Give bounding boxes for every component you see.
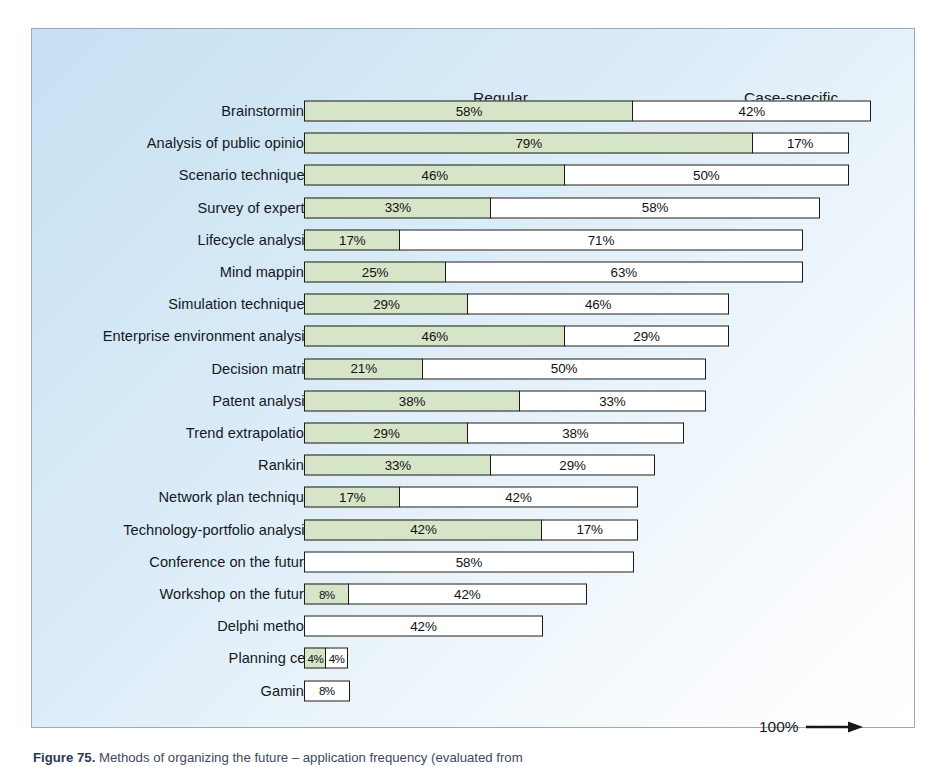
bar-segment-value: 29% [633,330,660,343]
bar-segment-value: 4% [308,653,324,665]
table-row: Scenario techniques46%50% [32,163,916,187]
stacked-bar[interactable]: 29%46% [304,294,729,315]
bar-segment-regular[interactable]: 58% [304,101,634,122]
bar-segment-case-specific[interactable]: 42% [304,616,543,637]
bar-segment-regular[interactable]: 46% [304,165,566,186]
table-row: Delphi method42% [32,614,916,638]
row-label: Simulation techniques [168,296,312,312]
bar-segment-value: 29% [373,297,400,310]
bar-segment-case-specific[interactable]: 58% [304,551,634,572]
row-label: Enterprise environment analysis [103,328,312,344]
stacked-bar[interactable]: 29%38% [304,423,684,444]
bar-segment-case-specific[interactable]: 46% [467,294,729,315]
stacked-bar[interactable]: 46%29% [304,326,729,347]
bar-segment-value: 38% [562,426,589,439]
table-row: Enterprise environment analysis46%29% [32,324,916,348]
bar-segment-value: 46% [422,330,449,343]
bar-segment-value: 17% [339,491,366,504]
figure-caption: Figure 75. Methods of organizing the fut… [33,750,923,765]
stacked-bar[interactable]: 79%17% [304,133,849,154]
bar-segment-case-specific[interactable]: 42% [632,101,871,122]
bar-segment-regular[interactable]: 42% [304,519,543,540]
stacked-bar[interactable]: 33%29% [304,455,655,476]
bar-segment-value: 50% [693,169,720,182]
stacked-bar[interactable]: 8% [304,680,350,701]
bar-segment-case-specific[interactable]: 33% [519,390,707,411]
bar-segment-value: 8% [319,588,335,600]
bar-segment-case-specific[interactable]: 4% [325,648,348,669]
row-label: Delphi method [217,618,312,634]
scale-label: 100% [759,718,799,736]
row-label: Mind mapping [220,264,312,280]
bar-segment-case-specific[interactable]: 17% [541,519,638,540]
table-row: Mind mapping25%63% [32,260,916,284]
bar-segment-regular[interactable]: 21% [304,358,423,379]
bar-segment-value: 29% [559,458,586,471]
bar-segment-value: 25% [362,265,389,278]
bar-segment-regular[interactable]: 8% [304,584,350,605]
bar-segment-case-specific[interactable]: 29% [490,455,655,476]
bar-segment-value: 79% [515,136,542,149]
bar-segment-case-specific[interactable]: 17% [752,133,849,154]
table-row: Planning cell4%4% [32,646,916,670]
bar-segment-value: 29% [373,426,400,439]
bar-segment-regular[interactable]: 33% [304,197,492,218]
bar-segment-case-specific[interactable]: 63% [445,262,803,283]
right-arrow-icon [806,721,864,733]
row-label: Patent analysis [212,393,312,409]
table-row: Technology-portfolio analysis42%17% [32,518,916,542]
row-label: Decision matrix [212,361,313,377]
table-row: Ranking33%29% [32,453,916,477]
stacked-bar[interactable]: 17%42% [304,487,638,508]
table-row: Patent analysis38%33% [32,389,916,413]
bar-segment-regular[interactable]: 17% [304,229,401,250]
table-row: Brainstorming58%42% [32,99,916,123]
bar-segment-case-specific[interactable]: 42% [348,584,587,605]
stacked-bar[interactable]: 17%71% [304,229,803,250]
bar-segment-value: 58% [456,555,483,568]
row-label: Lifecycle analysis [198,232,312,248]
bar-segment-case-specific[interactable]: 71% [399,229,803,250]
stacked-bar[interactable]: 42% [304,616,543,637]
bar-segment-regular[interactable]: 29% [304,423,469,444]
row-label: Planning cell [229,650,312,666]
caption-label: Figure 75. [33,750,95,765]
bar-segment-regular[interactable]: 79% [304,133,754,154]
bar-segment-value: 4% [329,653,345,665]
table-row: Network plan technique17%42% [32,485,916,509]
bar-segment-case-specific[interactable]: 50% [564,165,849,186]
stacked-bar[interactable]: 8%42% [304,584,587,605]
row-label: Brainstorming [221,103,312,119]
figure-container: Regular Case-specific Brainstorming58%42… [0,0,946,767]
bar-segment-value: 38% [399,394,426,407]
bar-segment-case-specific[interactable]: 58% [490,197,820,218]
stacked-bar[interactable]: 38%33% [304,390,706,411]
stacked-bar[interactable]: 58%42% [304,101,871,122]
stacked-bar[interactable]: 33%58% [304,197,820,218]
stacked-bar[interactable]: 46%50% [304,165,849,186]
row-label: Scenario techniques [179,167,312,183]
bar-segment-value: 33% [599,394,626,407]
bar-segment-regular[interactable]: 46% [304,326,566,347]
stacked-bar[interactable]: 4%4% [304,648,348,669]
bar-segment-case-specific[interactable]: 42% [399,487,638,508]
stacked-bar[interactable]: 42%17% [304,519,638,540]
bar-segment-case-specific[interactable]: 8% [304,680,350,701]
stacked-bar[interactable]: 21%50% [304,358,706,379]
bar-segment-regular[interactable]: 33% [304,455,492,476]
scale-annotation: 100% [759,718,864,736]
bar-segment-case-specific[interactable]: 50% [422,358,707,379]
bar-segment-regular[interactable]: 29% [304,294,469,315]
stacked-bar[interactable]: 25%63% [304,262,803,283]
bar-segment-value: 17% [339,233,366,246]
bar-segment-value: 58% [642,201,669,214]
bar-segment-case-specific[interactable]: 29% [564,326,729,347]
bar-segment-regular[interactable]: 38% [304,390,520,411]
bar-segment-regular[interactable]: 25% [304,262,446,283]
stacked-bar[interactable]: 58% [304,551,634,572]
table-row: Workshop on the future8%42% [32,582,916,606]
bar-segment-regular[interactable]: 4% [304,648,327,669]
bar-segment-value: 42% [410,619,437,632]
bar-segment-regular[interactable]: 17% [304,487,401,508]
bar-segment-case-specific[interactable]: 38% [467,423,683,444]
